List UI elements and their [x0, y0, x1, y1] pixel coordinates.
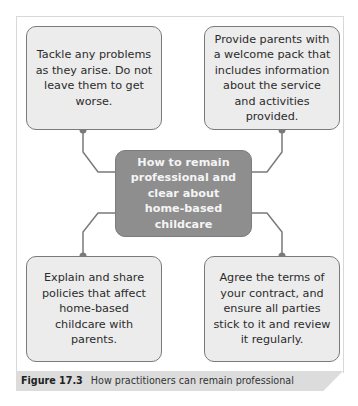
connector-top-right: [252, 130, 282, 172]
connector-bottom-right: [252, 213, 282, 254]
node-bottom-left-text: Explain and share policies that affect h…: [35, 270, 153, 348]
node-top-right: Provide parents with a welcome pack that…: [204, 26, 340, 130]
node-bottom-left: Explain and share policies that affect h…: [26, 256, 162, 362]
node-top-left-text: Tackle any problems as they arise. Do no…: [35, 47, 153, 109]
node-top-right-text: Provide parents with a welcome pack that…: [213, 32, 331, 125]
center-node-text: How to remain professional and clear abo…: [128, 155, 239, 233]
center-node: How to remain professional and clear abo…: [115, 150, 252, 237]
connector-bottom-left: [83, 213, 115, 254]
node-top-left: Tackle any problems as they arise. Do no…: [26, 26, 162, 130]
node-bottom-right: Agree the terms of your contract, and en…: [204, 256, 340, 362]
figure-caption: Figure 17.3 How practitioners can remain…: [16, 371, 343, 391]
caption-label: Figure 17.3: [21, 375, 83, 386]
caption-text: How practitioners can remain professiona…: [91, 375, 294, 386]
connector-top-left: [83, 130, 115, 172]
node-bottom-right-text: Agree the terms of your contract, and en…: [213, 270, 331, 348]
